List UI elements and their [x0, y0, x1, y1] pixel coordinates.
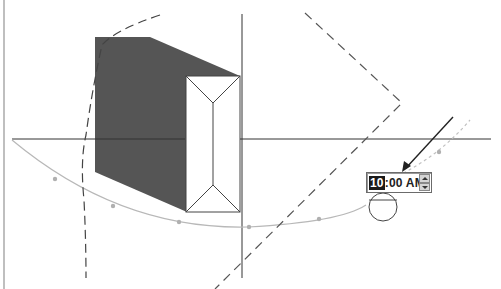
- time-spinner[interactable]: [419, 174, 430, 191]
- building-roof: [186, 76, 240, 212]
- diagram-canvas: [0, 0, 501, 289]
- time-hour-selected[interactable]: 10: [369, 176, 385, 190]
- pointer-arrow: [402, 117, 453, 172]
- spinner-down-button[interactable]: [419, 183, 430, 192]
- sun-path-arc-right: [398, 120, 470, 176]
- compass-circle: [369, 193, 397, 221]
- time-spinner-field[interactable]: 10:00 AM: [366, 172, 432, 193]
- spinner-up-button[interactable]: [419, 174, 430, 183]
- time-value[interactable]: 10:00 AM: [367, 176, 425, 190]
- dashed-rhombus: [215, 13, 402, 289]
